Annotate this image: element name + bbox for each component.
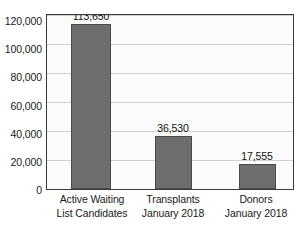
bar-chart: 120,000 100,000 80,000 60,000 40,000 20,… bbox=[0, 0, 304, 228]
y-tick-label: 20,000 bbox=[0, 157, 42, 167]
bar-donors-january-2018[interactable] bbox=[239, 164, 276, 189]
plot-area: 113,650 36,530 17,555 bbox=[46, 14, 294, 190]
x-category-line-3b: January 2018 bbox=[206, 206, 304, 220]
bar-value-label-3: 17,555 bbox=[227, 151, 287, 162]
y-tick-label: 100,000 bbox=[0, 44, 42, 54]
y-tick-label: 40,000 bbox=[0, 129, 42, 139]
y-axis: 120,000 100,000 80,000 60,000 40,000 20,… bbox=[0, 0, 42, 228]
y-tick-label: 0 bbox=[0, 185, 42, 195]
x-category-line-3a: Donors bbox=[206, 192, 304, 206]
plot-inner: 113,650 36,530 17,555 bbox=[47, 15, 293, 189]
y-tick-label: 120,000 bbox=[0, 16, 42, 26]
x-axis: Active Waiting List Candidates Transplan… bbox=[46, 192, 294, 226]
x-category-label-3: Donors January 2018 bbox=[206, 192, 304, 220]
bar-value-label-2: 36,530 bbox=[143, 123, 203, 134]
bar-transplants-january-2018[interactable] bbox=[155, 136, 192, 189]
bar-value-label-1: 113,650 bbox=[61, 15, 121, 22]
bar-active-waiting-list-candidates[interactable] bbox=[71, 24, 111, 189]
y-tick-label: 60,000 bbox=[0, 101, 42, 111]
y-tick-label: 80,000 bbox=[0, 72, 42, 82]
